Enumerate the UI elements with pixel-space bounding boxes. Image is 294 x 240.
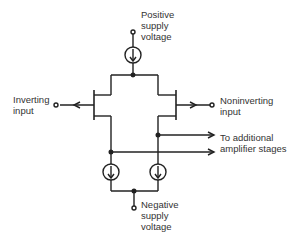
output-label: To additional amplifier stages [220,132,287,154]
bottom-right-current-source-icon [150,164,166,180]
positive-supply-label: Positive supply voltage [141,9,174,42]
noninverting-input-terminal [210,103,214,107]
top-current-source-icon [125,47,141,63]
inverting-input-terminal [54,103,58,107]
positive-supply-terminal [131,30,135,47]
right-transistor-icon [158,75,210,164]
left-transistor-icon [60,75,111,164]
negative-supply-label: Negative supply voltage [141,199,179,232]
negative-supply-terminal [132,206,136,210]
bottom-left-current-source-icon [103,164,119,180]
noninverting-input-label: Noninverting input [220,95,273,117]
inverting-input-label: Inverting input [13,94,49,116]
